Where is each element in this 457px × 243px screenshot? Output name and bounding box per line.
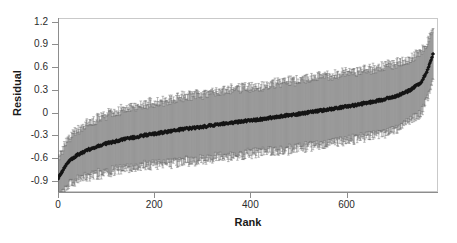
residual-rank-chart: 1.20.90.60.30-0.3-0.6-0.9 0200400600 Res… (0, 0, 457, 243)
x-tick-label: 200 (134, 200, 174, 210)
x-axis-title: Rank (58, 216, 438, 228)
y-tick-label: -0.3 (0, 130, 48, 140)
y-tick-label: 1.2 (0, 17, 48, 27)
x-tick-mark (347, 192, 348, 198)
y-tick-label: 0 (0, 108, 48, 118)
x-tick-mark (250, 192, 251, 198)
x-tick-mark (154, 192, 155, 198)
y-tick-label: 0.3 (0, 85, 48, 95)
x-tick-mark (58, 192, 59, 198)
y-tick-label: 0.6 (0, 62, 48, 72)
x-tick-label: 0 (38, 200, 78, 210)
y-tick-label: -0.6 (0, 153, 48, 163)
y-tick-label: 0.9 (0, 39, 48, 49)
x-axis-line (58, 192, 438, 193)
y-axis-title: Residual (11, 53, 23, 133)
data-series-layer (58, 18, 438, 192)
x-tick-label: 400 (230, 200, 270, 210)
y-tick-label: -0.9 (0, 176, 48, 186)
error-bars (58, 29, 434, 192)
x-tick-label: 600 (327, 200, 367, 210)
